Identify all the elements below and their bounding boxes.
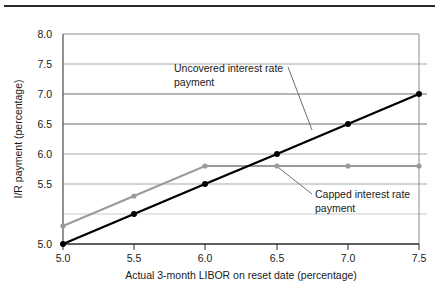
data-point [274, 163, 279, 168]
x-tick-label-7-0: 7.0 [341, 252, 356, 264]
y-tick-label-7-0: 7.0 [37, 88, 52, 100]
y-tick-label-5-0: 5.0 [37, 238, 52, 250]
x-axis-ticks [63, 244, 419, 250]
data-point [274, 151, 280, 157]
chart-figure: 8.0 7.5 7.0 6.5 6.0 5.5 5.0 5.0 5.5 6.0 … [0, 0, 439, 288]
capped-annotation: Capped interest rate payment [279, 168, 410, 214]
uncovered-annotation: Uncovered interest rate payment [174, 62, 312, 130]
data-point [202, 163, 207, 168]
capped-annotation-line1: Capped interest rate [315, 188, 410, 200]
data-point [131, 211, 137, 217]
y-tick-label-8-0: 8.0 [37, 28, 52, 40]
data-point [60, 241, 66, 247]
data-point [416, 91, 422, 97]
data-point [202, 181, 208, 187]
line-chart-plot: 8.0 7.5 7.0 6.5 6.0 5.5 5.0 5.0 5.5 6.0 … [0, 0, 439, 288]
y-tick-label-7-5: 7.5 [37, 58, 52, 70]
data-point [60, 223, 65, 228]
x-tick-label-6-5: 6.5 [270, 252, 285, 264]
uncovered-annotation-line1: Uncovered interest rate [174, 62, 283, 74]
x-tick-label-5-0: 5.0 [56, 252, 71, 264]
data-point [416, 163, 421, 168]
data-point [345, 121, 351, 127]
capped-annotation-line2: payment [315, 202, 355, 214]
data-point [345, 163, 350, 168]
y-tick-label-6-0: 6.0 [37, 148, 52, 160]
x-tick-label-5-5: 5.5 [127, 252, 142, 264]
uncovered-annotation-line2: payment [174, 76, 214, 88]
y-tick-label-6-5: 6.5 [37, 118, 52, 130]
x-tick-label-7-5: 7.5 [412, 252, 427, 264]
series-uncovered-interest-rate-payment [60, 91, 422, 247]
y-tick-label-5-5: 5.5 [37, 178, 52, 190]
data-point [131, 193, 136, 198]
y-axis-title: I/R payment (percentage) [12, 79, 24, 198]
x-axis-title: Actual 3-month LIBOR on reset date (perc… [125, 269, 357, 281]
x-tick-label-6-0: 6.0 [198, 252, 213, 264]
